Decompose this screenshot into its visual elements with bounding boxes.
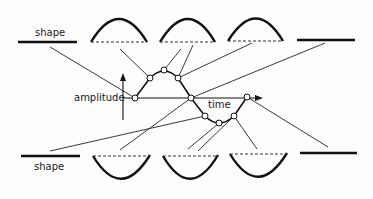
connector-top-hump1 (120, 49, 150, 78)
bottom-trough-1 (93, 155, 150, 179)
diagram-canvas: shape amplitude time (0, 0, 373, 199)
top-hump-1 (91, 19, 147, 42)
amplitude-label: amplitude (74, 92, 125, 103)
top-shape-row: shape (18, 19, 355, 43)
waveform-shape-diagram: shape amplitude time (0, 0, 373, 199)
sample-point (244, 94, 250, 100)
sample-point (216, 120, 222, 126)
bottom-trough-2 (163, 155, 218, 179)
connector-bottom-left-shape (50, 116, 205, 151)
waveform (132, 67, 250, 126)
bottom-shape-row: shape (21, 153, 357, 179)
bottom-shape-label: shape (34, 161, 64, 172)
sample-point (175, 75, 181, 81)
sample-point (161, 67, 167, 73)
sample-point (202, 113, 208, 119)
connector-bottom-trough1 (120, 98, 191, 150)
connector-top-hump3 (178, 43, 252, 78)
sample-point (231, 113, 237, 119)
connector-top-right-shape (191, 43, 325, 98)
sample-point (188, 95, 194, 101)
time-arrow-icon (255, 95, 263, 101)
connector-top-left-shape (50, 47, 135, 98)
amplitude-arrow-icon (120, 73, 126, 81)
top-hump-3 (228, 19, 283, 42)
bottom-trough-3 (230, 153, 287, 177)
connector-bottom-right-shape (247, 97, 328, 147)
connector-top-hump2a (164, 49, 181, 70)
top-hump-2 (160, 19, 215, 42)
connector-bottom-trough3 (234, 116, 257, 149)
top-shape-label: shape (35, 27, 65, 38)
sample-point (147, 75, 153, 81)
sample-point (132, 95, 138, 101)
sample-points (132, 67, 250, 126)
time-label: time (208, 99, 231, 110)
